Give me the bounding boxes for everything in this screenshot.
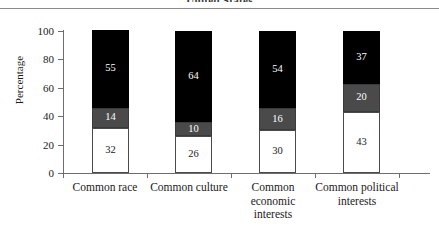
bar-segment-black[interactable]: 64 [175,31,212,122]
x-tick-mark [315,173,316,178]
y-tick-label: 60 [16,83,54,94]
bar-segment-white[interactable]: 32 [92,128,129,173]
bar-segment-gray[interactable]: 14 [92,108,129,128]
x-category-label: Common culture [147,181,231,195]
stacked-bar[interactable]: 261064 [175,31,212,173]
x-tick-mark [231,173,232,178]
bar-segment-white[interactable]: 30 [259,130,296,173]
stacked-bar[interactable]: 301654 [259,31,296,173]
bar-segment-black[interactable]: 55 [92,30,129,108]
x-tick-mark [63,173,64,178]
bar-segment-gray[interactable]: 10 [175,122,212,136]
chart-plot-area: 020406080100321455Common race261064Commo… [0,0,439,229]
stacked-bar[interactable]: 321455 [92,31,129,173]
category-label-line: Common race [73,181,138,193]
y-tick-label: 100 [16,26,54,37]
x-category-label: Commoneconomicinterests [231,181,315,222]
bar-segment-gray[interactable]: 20 [343,84,380,112]
y-tick-mark [58,116,63,117]
bar-segment-white[interactable]: 43 [343,112,380,173]
x-category-label: Common race [63,181,147,195]
bar-segment-black[interactable]: 54 [259,31,296,108]
y-tick-label: 40 [16,111,54,122]
category-label-line: Common culture [150,181,228,193]
stacked-bar[interactable]: 432037 [343,31,380,173]
y-tick-mark [58,31,63,32]
category-label-line: economic [251,195,296,207]
bar-segment-white[interactable]: 26 [175,136,212,173]
bar-segment-gray[interactable]: 16 [259,108,296,131]
category-label-line: Common political [315,181,398,193]
category-label-line: interests [338,195,376,207]
y-tick-mark [58,88,63,89]
x-tick-mark [147,173,148,178]
y-axis-line [63,30,64,174]
x-axis-line [63,173,430,174]
category-label-line: interests [254,208,292,220]
y-tick-mark [58,59,63,60]
y-tick-label: 80 [16,54,54,65]
x-tick-mark [399,173,400,178]
category-label-line: Common [252,181,295,193]
y-tick-mark [58,145,63,146]
x-category-label: Common politicalinterests [315,181,399,208]
bar-segment-black[interactable]: 37 [343,31,380,84]
y-tick-label: 20 [16,140,54,151]
y-tick-label: 0 [16,168,54,179]
